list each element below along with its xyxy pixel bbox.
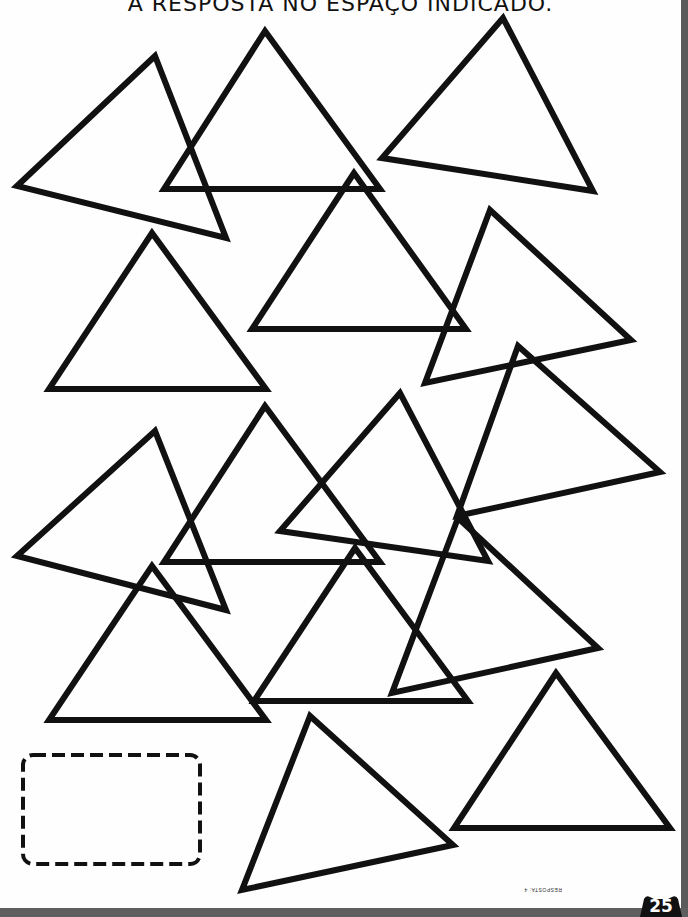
triangle-shape	[49, 233, 266, 389]
worksheet-page: A RESPOSTA NO ESPAÇO INDICADO. RESPOSTA:…	[0, 0, 681, 908]
triangle-shape	[17, 431, 226, 610]
triangle-shape	[382, 18, 593, 191]
triangle-shape	[252, 173, 466, 329]
page-number: 25	[640, 896, 682, 916]
answer-box[interactable]	[20, 752, 203, 867]
triangle-shape	[17, 56, 226, 238]
triangle-shape	[280, 393, 488, 561]
page-edge-right	[681, 0, 688, 917]
page-edge-bottom	[0, 908, 688, 917]
answer-key-text: RESPOSTA: 4	[524, 887, 562, 893]
triangle-shape	[242, 716, 453, 890]
triangle-shape	[454, 673, 670, 828]
triangle-shape	[392, 518, 598, 693]
triangle-shape	[49, 566, 266, 720]
page-number-badge: 25	[640, 893, 682, 917]
